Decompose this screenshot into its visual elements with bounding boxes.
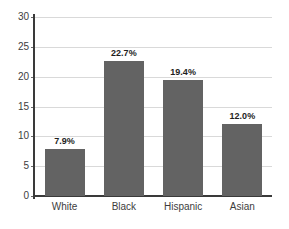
bar-value-label: 7.9% [35, 137, 95, 146]
plot-area: 7.9%22.7%19.4%12.0% [35, 17, 272, 196]
bar-chart: 051015202530 7.9%22.7%19.4%12.0% WhiteBl… [0, 0, 289, 229]
bar [163, 80, 203, 196]
y-axis-tick-label-text: 30 [3, 12, 29, 22]
y-axis-tick-label-text: 15 [3, 102, 29, 112]
y-axis-tick-label: 10 [0, 131, 29, 141]
y-axis-tick-label: 15 [0, 102, 29, 112]
bar-value-label: 22.7% [94, 49, 154, 58]
y-axis-tick-label: 5 [0, 161, 29, 171]
y-axis-tick-label-text: 0 [3, 191, 29, 201]
category-label: Asian [202, 201, 282, 213]
y-axis-tick-label: 25 [0, 42, 29, 52]
y-axis-tick-label-text: 5 [3, 161, 29, 171]
y-axis-tick-label-text: 20 [3, 72, 29, 82]
bar-value-label: 12.0% [212, 112, 272, 121]
y-axis-tick-label: 30 [0, 12, 29, 22]
y-axis-tick-label-text: 10 [3, 131, 29, 141]
y-axis-tick-label: 0 [0, 191, 29, 201]
bar [45, 149, 85, 196]
y-axis-tick-label: 20 [0, 72, 29, 82]
bar [222, 124, 262, 196]
bar-value-label: 19.4% [153, 68, 213, 77]
y-axis-tick-label-text: 25 [3, 42, 29, 52]
gridline [35, 17, 272, 18]
gridline [35, 107, 272, 108]
bar [104, 61, 144, 196]
